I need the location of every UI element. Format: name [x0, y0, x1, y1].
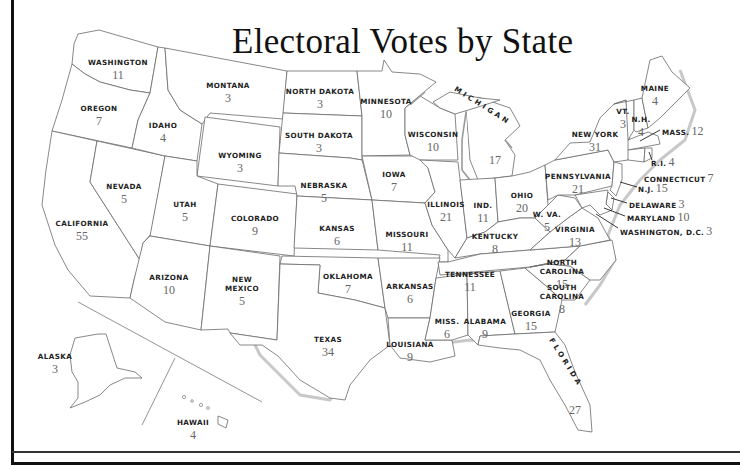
- electoral-votes: 9: [386, 351, 434, 363]
- state-label-louisiana: LOUISIANA9: [386, 340, 434, 363]
- state-label-west-virginia: W. VA.5: [533, 210, 561, 233]
- state-name: MINNESOTA: [360, 97, 412, 106]
- electoral-votes: 7: [81, 115, 118, 127]
- electoral-votes: 31: [572, 141, 619, 153]
- state-label-kansas: KANSAS6: [319, 224, 354, 247]
- state-label-hawaii: HAWAII4: [177, 418, 209, 441]
- electoral-votes: 3: [285, 142, 353, 154]
- state-name: LOUISIANA: [386, 340, 434, 349]
- electoral-votes: 4: [668, 155, 674, 169]
- state-label-california: CALIFORNIA55: [56, 219, 109, 242]
- state-name: UTAH: [173, 200, 196, 209]
- state-label-arizona: ARIZONA10: [149, 273, 188, 296]
- electoral-votes: 5: [225, 295, 259, 307]
- electoral-votes: 6: [386, 293, 433, 305]
- electoral-votes: 21: [427, 211, 465, 223]
- electoral-votes: 6: [319, 235, 354, 247]
- electoral-votes: 4: [149, 132, 177, 144]
- electoral-votes: 3: [706, 224, 712, 238]
- state-name: MISS.: [435, 317, 460, 326]
- state-name: ALABAMA: [464, 317, 506, 326]
- electoral-votes: 8: [540, 303, 585, 315]
- state-name: WASHINGTON: [88, 58, 148, 67]
- electoral-votes: 4: [631, 126, 650, 138]
- state-name: NORTH: [540, 258, 585, 267]
- state-name: WYOMING: [218, 151, 262, 160]
- state-label-wyoming: WYOMING3: [218, 151, 262, 174]
- state-name: MAINE: [641, 84, 669, 93]
- state-label-tennessee: TENNESSEE11: [445, 270, 495, 293]
- state-name: MASS.: [662, 128, 689, 137]
- electoral-votes: 3: [286, 98, 354, 110]
- electoral-votes: 17: [489, 154, 501, 166]
- state-label-wisconsin: WISCONSIN10: [408, 130, 459, 153]
- electoral-votes: 34: [314, 346, 342, 358]
- state-label-montana: MONTANA3: [206, 81, 250, 104]
- state-name: SOUTH DAKOTA: [285, 131, 353, 140]
- state-label-mississippi: MISS.6: [435, 317, 460, 340]
- state-label-kentucky: KENTUCKY8: [472, 232, 518, 255]
- electoral-votes: 3: [616, 118, 629, 130]
- electoral-votes: 10: [149, 284, 188, 296]
- electoral-votes: 20: [511, 202, 534, 214]
- state-name: ARKANSAS: [386, 282, 433, 291]
- electoral-votes: 9: [464, 328, 506, 340]
- state-name: WISCONSIN: [408, 130, 459, 139]
- state-name: N.J.: [638, 185, 654, 194]
- state-label-alabama: ALABAMA9: [464, 317, 506, 340]
- state-name: N.H.: [631, 115, 650, 124]
- state-name: IDAHO: [149, 121, 177, 130]
- state-label-north-dakota: NORTH DAKOTA3: [286, 87, 354, 110]
- state-label-oklahoma: OKLAHOMA7: [323, 272, 373, 295]
- state-label-utah: UTAH5: [173, 200, 196, 223]
- state-hawaii[interactable]: [218, 416, 228, 428]
- state-name: CAROLINA: [540, 267, 585, 276]
- electoral-votes: 8: [472, 243, 518, 255]
- electoral-votes: 10: [360, 108, 412, 120]
- electoral-votes: 10: [408, 141, 459, 153]
- state-label-idaho: IDAHO4: [149, 121, 177, 144]
- electoral-votes: 13: [555, 236, 595, 248]
- state-name: COLORADO: [231, 214, 279, 223]
- electoral-votes: 7: [708, 171, 714, 185]
- state-label-north-carolina: NORTHCAROLINA15: [540, 258, 585, 290]
- state-label-new-hampshire: N.H.4: [631, 115, 650, 138]
- state-name: KANSAS: [319, 224, 354, 233]
- state-name: ALASKA: [38, 352, 72, 361]
- electoral-votes: 11: [474, 212, 493, 224]
- state-name: KENTUCKY: [472, 232, 518, 241]
- state-name: TEXAS: [314, 335, 342, 344]
- state-name: NEVADA: [106, 182, 142, 191]
- electoral-votes: 55: [56, 230, 109, 242]
- electoral-votes: 4: [177, 429, 209, 441]
- state-name: WASHINGTON, D.C.: [620, 228, 704, 237]
- electoral-votes: 21: [545, 183, 611, 195]
- state-label-new-york: NEW YORK31: [572, 130, 619, 153]
- state-name: NEW: [225, 275, 259, 284]
- state-name: PENNSYLVANIA: [545, 172, 611, 181]
- electoral-votes: 9: [231, 225, 279, 237]
- state-label-nevada: NEVADA5: [106, 182, 142, 205]
- electoral-votes: 3: [206, 92, 250, 104]
- electoral-votes: 7: [382, 181, 406, 193]
- state-label-missouri: MISSOURI11: [385, 230, 428, 253]
- state-label-oregon: OREGON7: [81, 104, 118, 127]
- state-alaska[interactable]: [70, 334, 142, 408]
- electoral-votes: 15: [511, 320, 550, 332]
- state-label-minnesota: MINNESOTA10: [360, 97, 412, 120]
- state-name: OHIO: [511, 191, 534, 200]
- state-label-washington: WASHINGTON11: [88, 58, 148, 81]
- electoral-votes: 5: [533, 221, 561, 233]
- state-label-alaska: ALASKA3: [38, 352, 72, 375]
- state-name: NEBRASKA: [300, 181, 347, 190]
- electoral-votes: 5: [173, 211, 196, 223]
- state-name: ILLINOIS: [427, 200, 465, 209]
- state-name: NEW YORK: [572, 130, 619, 139]
- state-label-indiana: IND.11: [474, 201, 493, 224]
- electoral-votes: 5: [300, 192, 347, 204]
- state-connecticut[interactable]: [628, 148, 645, 162]
- state-label-massachusetts: MASS.12: [662, 121, 703, 139]
- electoral-votes: 4: [641, 95, 669, 107]
- state-name: HAWAII: [177, 418, 209, 427]
- electoral-votes: 3: [38, 363, 72, 375]
